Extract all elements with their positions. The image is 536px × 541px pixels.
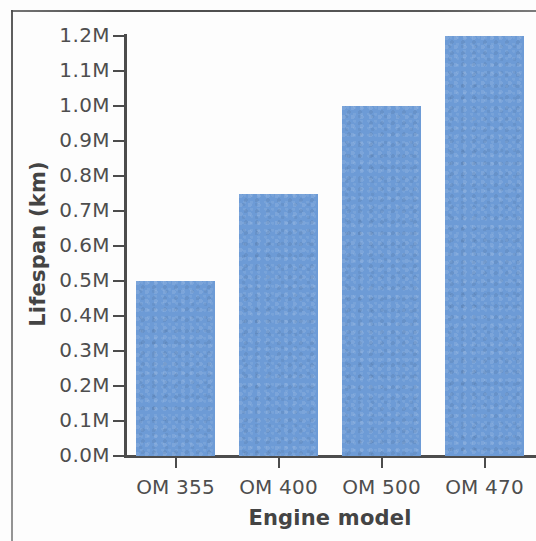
bar[interactable]	[136, 281, 215, 456]
bar-chart-plot-area: 0.0M0.1M0.2M0.3M0.4M0.5M0.6M0.7M0.8M0.9M…	[0, 0, 536, 541]
x-axis-tick	[175, 457, 177, 468]
y-axis-tick-label: 1.0M	[18, 95, 110, 115]
x-axis-tick-label: OM 500	[330, 476, 433, 498]
y-axis-tick-label: 0.0M	[18, 445, 110, 465]
x-axis-tick-label: OM 470	[433, 476, 536, 498]
x-axis-tick-label: OM 400	[227, 476, 330, 498]
x-axis-tick	[278, 457, 280, 468]
y-axis-tick	[113, 105, 125, 107]
y-axis-tick	[113, 175, 125, 177]
x-axis-tick-label: OM 355	[124, 476, 227, 498]
y-axis-tick-label: 1.1M	[18, 60, 110, 80]
y-axis-tick-label: 0.1M	[18, 410, 110, 430]
bar[interactable]	[239, 194, 318, 457]
chart-page: 0.0M0.1M0.2M0.3M0.4M0.5M0.6M0.7M0.8M0.9M…	[0, 0, 536, 541]
y-axis-tick	[113, 350, 125, 352]
bar[interactable]	[342, 106, 421, 456]
y-axis-title: Lifespan (km)	[26, 114, 50, 374]
y-axis-tick	[113, 280, 125, 282]
y-axis-tick	[113, 315, 125, 317]
bar[interactable]	[445, 36, 524, 456]
x-axis-tick	[381, 457, 383, 468]
y-axis-tick-label: 1.2M	[18, 25, 110, 45]
y-axis-tick	[113, 70, 125, 72]
y-axis-tick	[113, 455, 125, 457]
y-axis-tick	[113, 140, 125, 142]
x-axis-tick	[484, 457, 486, 468]
x-axis-title: Engine model	[124, 506, 536, 530]
y-axis-tick	[113, 245, 125, 247]
y-axis-tick-label: 0.2M	[18, 375, 110, 395]
y-axis-tick	[113, 385, 125, 387]
y-axis-tick	[113, 420, 125, 422]
y-axis-tick	[113, 210, 125, 212]
y-axis-tick	[113, 35, 125, 37]
